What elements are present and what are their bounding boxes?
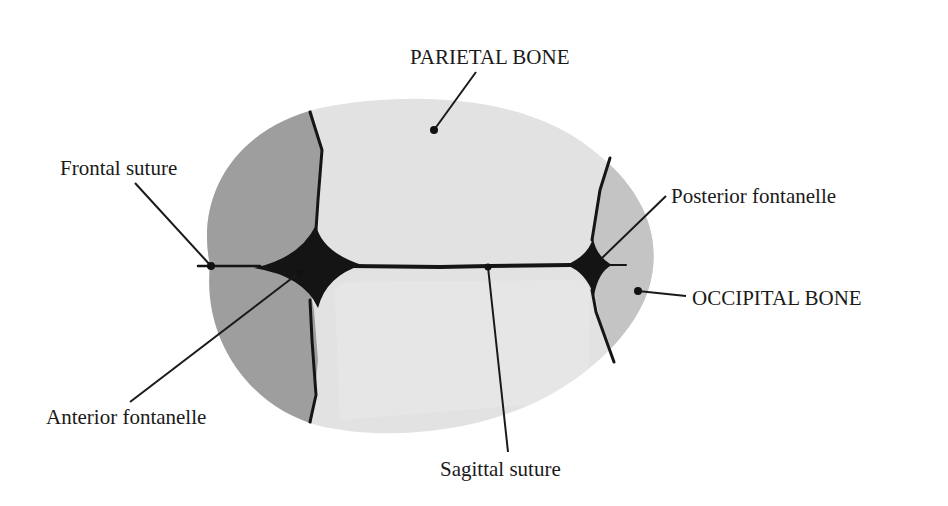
parietal-dot xyxy=(430,126,438,134)
label-sagittal-suture: Sagittal suture xyxy=(440,457,561,481)
skull xyxy=(150,80,700,460)
label-occipital-bone: OCCIPITAL BONE xyxy=(692,286,862,310)
frontal-suture-leader xyxy=(135,183,211,266)
label-posterior-fontanelle: Posterior fontanelle xyxy=(671,184,836,208)
parietal-bone-lower-inner xyxy=(334,280,590,420)
frontal-suture-dot xyxy=(207,262,215,270)
anterior-fontanelle-dot xyxy=(297,270,304,277)
label-anterior-fontanelle: Anterior fontanelle xyxy=(46,405,206,429)
occipital-dot xyxy=(634,287,642,295)
sagittal-dot xyxy=(485,264,492,271)
label-parietal-bone: PARIETAL BONE xyxy=(410,45,570,69)
skull-diagram: PARIETAL BONE Frontal suture Posterior f… xyxy=(0,0,948,506)
label-frontal-suture: Frontal suture xyxy=(60,156,177,180)
sagittal-suture-line xyxy=(350,265,570,267)
